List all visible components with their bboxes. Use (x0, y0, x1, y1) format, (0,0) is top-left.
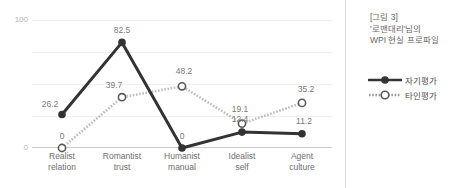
data-label-self-1: 82.5 (114, 26, 131, 35)
legend-item-other: 타인평가 (368, 87, 437, 102)
x-label-humanist-line2: manual (152, 162, 212, 173)
data-label-self-0: 26.2 (42, 100, 59, 109)
legend-marker-filled-circle-icon (368, 74, 402, 86)
chart-panel: 100 0 26.2 (0, 0, 345, 188)
y-tick-label-100: 100 (15, 16, 28, 24)
x-label-idealist: Idealist self (212, 151, 272, 185)
marker-other-4 (298, 99, 305, 106)
caption-line-figure-number: [그림 3] (370, 12, 439, 24)
data-label-other-1: 39.7 (106, 81, 123, 90)
caption-panel: [그림 3] '로맨대리'님의 WPI 현실 프로파일 자기평가 타인평가 (345, 0, 459, 188)
series-svg (32, 20, 332, 148)
data-label-self-4: 11.2 (296, 117, 312, 126)
x-label-agent-line1: Agent (272, 151, 332, 162)
x-label-humanist-line1: Humanist (152, 151, 212, 162)
data-label-self-2: 0 (180, 132, 185, 141)
x-label-realist-line1: Realist (32, 151, 92, 162)
marker-self-1 (118, 39, 126, 47)
data-label-other-3: 19.1 (232, 105, 249, 114)
caption-line-subject: '로맨대리'님의 (370, 24, 439, 36)
legend-label-other: 타인평가 (405, 89, 437, 101)
marker-self-0 (58, 111, 66, 119)
x-label-agent-line2: culture (272, 162, 332, 173)
x-label-romantist: Romantist trust (92, 151, 152, 185)
legend-item-self: 자기평가 (368, 72, 437, 87)
data-label-other-2: 48.2 (176, 67, 193, 76)
x-label-realist: Realist relation (32, 151, 92, 185)
caption-line-profile-title: WPI 현실 프로파일 (370, 35, 439, 47)
marker-other-1 (118, 94, 125, 101)
figure-caption: [그림 3] '로맨대리'님의 WPI 현실 프로파일 (370, 12, 439, 47)
x-label-realist-line2: relation (32, 162, 92, 173)
marker-self-4 (298, 130, 306, 138)
x-label-humanist: Humanist manual (152, 151, 212, 185)
marker-self-3 (238, 128, 246, 136)
data-label-other-0: 0 (60, 132, 65, 141)
data-label-self-3: 12.4 (232, 115, 249, 124)
x-label-agent: Agent culture (272, 151, 332, 185)
x-label-romantist-line1: Romantist (92, 151, 152, 162)
x-label-romantist-line2: trust (92, 162, 152, 173)
chart-screenshot: 100 0 26.2 (0, 0, 459, 188)
x-label-idealist-line2: self (212, 162, 272, 173)
legend-label-self: 자기평가 (405, 74, 437, 86)
plot-area: 100 0 26.2 (32, 20, 332, 148)
marker-other-2 (178, 83, 185, 90)
x-label-idealist-line1: Idealist (212, 151, 272, 162)
chart-legend: 자기평가 타인평가 (368, 72, 437, 102)
data-label-other-4: 35.2 (298, 85, 315, 94)
x-axis-labels: Realist relation Romantist trust Humanis… (32, 151, 332, 185)
y-tick-label-0: 0 (24, 144, 28, 152)
legend-marker-open-circle-icon (368, 89, 402, 101)
